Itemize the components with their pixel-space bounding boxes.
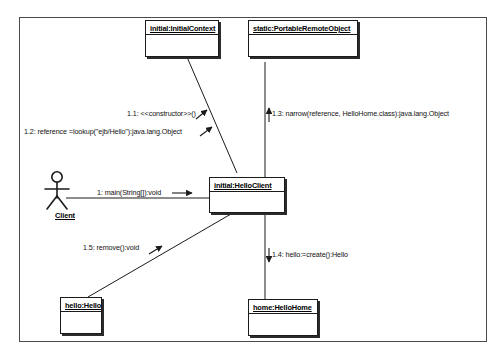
object-divider — [210, 191, 284, 192]
object-box-portable-remote-object[interactable]: static:PortableRemoteObject — [248, 20, 358, 57]
message-label-1-4: 1.4: hello:=create():Hello — [272, 250, 348, 259]
message-label-1-1: 1.1: <<constructor>>() — [127, 109, 196, 118]
object-label-hello-home: home:HelloHome — [249, 300, 317, 312]
message-label-1-2: 1.2: reference =lookup("ejb/Hello"):java… — [24, 127, 182, 136]
object-box-hello-home[interactable]: home:HelloHome — [248, 299, 318, 336]
uml-collaboration-diagram: initial:InitialContext static:PortableRe… — [0, 0, 504, 358]
object-box-hello-client[interactable]: initial:HelloClient — [209, 177, 285, 213]
object-label-initial-context: initial:InitialContext — [146, 21, 218, 33]
object-label-hello-client: initial:HelloClient — [210, 178, 284, 190]
actor-label: Client — [44, 211, 86, 220]
object-label-hello: hello:Hello — [61, 298, 101, 310]
object-divider — [249, 34, 357, 35]
message-label-1: 1: main(String[]):void — [97, 188, 161, 197]
object-box-hello[interactable]: hello:Hello — [60, 297, 102, 334]
message-label-1-3: 1.3: narrow(reference, HelloHome.class):… — [272, 109, 449, 118]
object-label-portable-remote-object: static:PortableRemoteObject — [249, 21, 357, 33]
message-label-1-5: 1.5: remove():void — [83, 243, 139, 252]
object-divider — [146, 34, 218, 35]
object-divider — [249, 313, 317, 314]
object-divider — [61, 311, 101, 312]
object-box-initial-context[interactable]: initial:InitialContext — [145, 20, 219, 57]
